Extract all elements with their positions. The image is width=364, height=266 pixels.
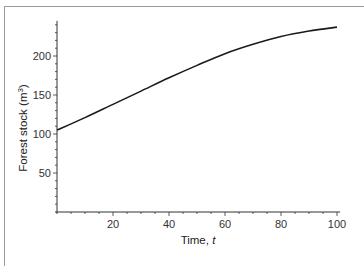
x-tick-label: 80 [275,218,287,230]
y-tick-label: 100 [33,128,51,140]
x-tick-label: 20 [107,218,119,230]
x-tick-label: 40 [163,218,175,230]
tick-labels: 5010015020020406080100 [33,50,347,230]
y-axis-title: Forest stock (m3) [16,84,30,172]
x-tick-label: 60 [219,218,231,230]
y-tick-label: 200 [33,50,51,62]
x-tick-label: 100 [328,218,346,230]
forest-stock-curve [57,27,337,130]
x-axis-title: Time, t [181,234,217,246]
y-tick-label: 150 [33,89,51,101]
tick-marks [53,25,337,216]
y-tick-label: 50 [39,167,51,179]
axes [55,21,340,214]
